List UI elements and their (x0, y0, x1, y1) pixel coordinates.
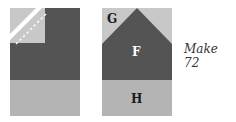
piece-label-h: H (131, 92, 142, 106)
piece-label-g: G (107, 12, 117, 26)
right-block-diagram: G F H (102, 8, 172, 116)
quantity-caption: Make 72 (184, 42, 236, 70)
piece-label-f: F (132, 45, 141, 59)
left-block-diagram (10, 8, 80, 116)
left-block-shapes (10, 8, 80, 116)
